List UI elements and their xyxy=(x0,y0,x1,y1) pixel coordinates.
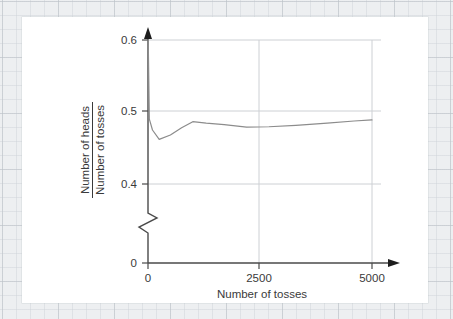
y-axis-arrow-icon xyxy=(144,27,152,39)
y-tick-label-0.4: 0.4 xyxy=(121,178,138,190)
x-axis-title: Number of tosses xyxy=(217,288,307,300)
x-axis xyxy=(148,259,400,267)
line-chart: 0.6 0.5 0.4 0 0 2500 5000 Number of toss… xyxy=(22,17,428,303)
x-tick-marks xyxy=(148,263,372,269)
x-axis-arrow-icon xyxy=(388,259,400,267)
x-tick-label-0: 0 xyxy=(145,272,151,284)
figure-card: 0.6 0.5 0.4 0 0 2500 5000 Number of toss… xyxy=(22,17,428,303)
y-axis-break-zigzag xyxy=(139,207,157,263)
page-background: 0.6 0.5 0.4 0 0 2500 5000 Number of toss… xyxy=(0,0,453,319)
y-axis-title: Number of heads Number of tosses xyxy=(79,102,106,198)
y-tick-label-0: 0 xyxy=(131,257,137,269)
x-tick-label-5000: 5000 xyxy=(359,272,385,284)
y-tick-label-0.5: 0.5 xyxy=(121,105,137,117)
data-series-line xyxy=(148,40,372,139)
gridlines xyxy=(148,40,381,263)
y-tick-label-0.6: 0.6 xyxy=(121,34,137,46)
x-tick-label-2500: 2500 xyxy=(246,272,272,284)
y-axis-title-denominator: Number of tosses xyxy=(94,105,106,195)
y-axis-title-numerator: Number of heads xyxy=(79,106,91,194)
